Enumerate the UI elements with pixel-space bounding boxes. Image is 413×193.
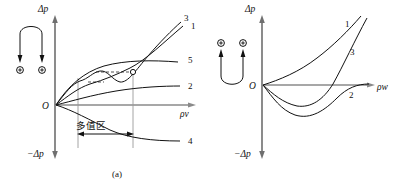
y-axis-arrow-down-b	[259, 151, 265, 159]
x-axis-arrow-b	[367, 82, 375, 87]
y-axis-arrow-up-b	[259, 15, 265, 23]
inset-arrow-right-b	[241, 49, 246, 57]
y-axis-bottom-label-b: −Δp	[234, 149, 251, 159]
y-axis-bottom-label-a: −Δp	[27, 149, 44, 159]
panel-b-plot: Δp −Δp ρw O 1 3 2	[207, 0, 413, 193]
curve-label-1-b: 1	[345, 19, 350, 29]
inset-arrow-left-b	[219, 49, 224, 57]
curve-5-a	[56, 61, 178, 105]
curve-label-4-a: 4	[188, 136, 193, 146]
panel-a-plot: Δp −Δp ρv O 3 1 5 2 4 多值区	[0, 0, 207, 193]
curve-label-3-a: 3	[184, 13, 189, 23]
inset-circle-right-core-a	[41, 69, 43, 71]
y-axis-arrow-up-a	[52, 15, 58, 23]
inset-tube-path-a	[20, 27, 42, 61]
x-axis-arrow-a	[188, 102, 196, 107]
inset-arrow-left-a	[18, 55, 23, 63]
inset-circle-right-core-b	[242, 42, 244, 44]
caption-a: (a)	[112, 169, 122, 179]
panel-b: Δp −Δp ρw O 1 3 2 (b)	[207, 0, 413, 193]
origin-label-a: O	[42, 101, 49, 111]
y-axis-top-label-b: Δp	[244, 4, 256, 14]
multivalue-region-label: 多值区	[76, 120, 106, 131]
curve-3-a	[56, 22, 181, 105]
inset-downflow-u-tube-a	[17, 27, 46, 74]
operating-point-marker-a	[130, 69, 135, 74]
origin-label-b: O	[249, 81, 256, 91]
curve-4-a	[56, 105, 180, 141]
y-axis-top-label-a: Δp	[37, 4, 49, 14]
y-axis-arrow-down-a	[52, 151, 58, 159]
inset-tube-path-b	[221, 52, 243, 84]
inset-upflow-u-tube-b	[218, 40, 247, 85]
inset-circle-left-core-b	[220, 42, 222, 44]
figure-container: Δp −Δp ρv O 3 1 5 2 4 多值区 (a)	[0, 0, 413, 193]
panel-a: Δp −Δp ρv O 3 1 5 2 4 多值区 (a)	[0, 0, 207, 193]
curve-label-2-b: 2	[349, 90, 354, 100]
x-axis-label-b: ρw	[376, 82, 389, 92]
inset-arrow-right-a	[40, 55, 45, 63]
x-axis-label-a: ρv	[179, 109, 190, 119]
curve-2-a	[56, 86, 180, 105]
curve-label-3-b: 3	[350, 47, 355, 57]
curve-label-2-a: 2	[188, 81, 193, 91]
curve-label-1-a: 1	[191, 21, 196, 31]
curve-2-b	[263, 84, 369, 116]
inset-circle-left-core-a	[19, 69, 21, 71]
curve-label-5-a: 5	[188, 55, 193, 65]
